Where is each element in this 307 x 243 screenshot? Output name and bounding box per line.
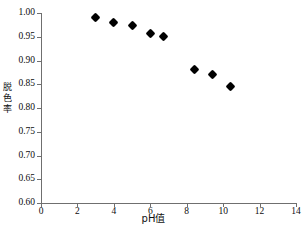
data-point <box>225 81 235 91</box>
y-axis-title-char-1: 脱 <box>1 82 13 93</box>
y-tick-label: 0.85 <box>18 80 35 90</box>
y-axis-line <box>41 13 42 204</box>
data-point <box>91 12 101 22</box>
y-tick-mark <box>37 132 41 133</box>
y-tick-label: 0.95 <box>18 32 35 42</box>
bottom-caption <box>0 236 307 243</box>
y-tick-mark <box>37 84 41 85</box>
y-tick-label: 1.00 <box>18 8 35 18</box>
plot-area: 0.600.650.700.750.800.850.900.951.00 024… <box>41 13 296 203</box>
data-point <box>109 17 119 27</box>
y-tick-label: 0.90 <box>18 56 35 66</box>
y-tick-mark <box>37 156 41 157</box>
y-tick-mark <box>37 179 41 180</box>
x-axis-title: pH值 <box>0 213 307 225</box>
y-tick-mark <box>37 61 41 62</box>
y-axis-title-char-2: 色 <box>1 93 13 104</box>
y-tick-label: 0.70 <box>18 151 35 161</box>
y-tick-mark <box>37 13 41 14</box>
data-point <box>145 29 155 39</box>
data-point <box>207 70 217 80</box>
y-tick-label: 0.65 <box>18 175 35 185</box>
y-axis-title-char-3: 率 <box>1 104 13 115</box>
data-point <box>127 21 137 31</box>
y-axis-title: 脱 色 率 <box>1 82 13 115</box>
y-tick-label: 0.80 <box>18 103 35 113</box>
y-tick-mark <box>37 37 41 38</box>
data-point <box>189 64 199 74</box>
y-tick-label: 0.75 <box>18 127 35 137</box>
y-tick-mark <box>37 108 41 109</box>
data-point <box>158 31 168 41</box>
y-tick-label: 0.60 <box>18 198 35 208</box>
chart-figure: 脱 色 率 0.600.650.700.750.800.850.900.951.… <box>0 0 307 243</box>
